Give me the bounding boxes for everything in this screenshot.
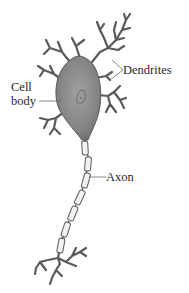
dendrites-leader-top: [112, 60, 123, 70]
nucleolus: [80, 97, 82, 99]
neuron-diagram: Dendrites Cell body Axon: [0, 0, 189, 293]
axon: [57, 141, 92, 254]
axon-label: Axon: [106, 171, 134, 184]
cell-body-label-line1: Cell: [11, 81, 32, 94]
neuron-illustration: [0, 0, 189, 293]
cell-body-label-line2: body: [11, 95, 36, 108]
dendrites-label: Dendrites: [123, 64, 172, 77]
